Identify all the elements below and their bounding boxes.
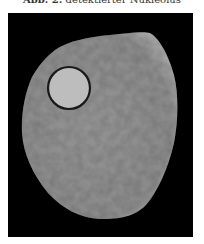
microscopy-figure xyxy=(8,13,193,237)
caption-text: detektierter Nukleolus xyxy=(62,0,180,5)
nucleolus-fill xyxy=(49,68,89,108)
cell-image xyxy=(8,13,193,237)
figure-caption: Abb. 2: detektierter Nukleolus xyxy=(0,0,204,6)
caption-label: Abb. 2: xyxy=(23,0,62,5)
cell-nucleus xyxy=(22,32,178,219)
